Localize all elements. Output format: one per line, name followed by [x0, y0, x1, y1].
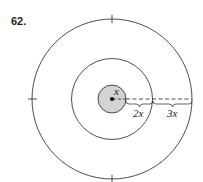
- concentric-circles-diagram: x 2x 3x: [0, 0, 203, 182]
- label-3x: 3x: [166, 107, 178, 119]
- label-2x: 2x: [133, 107, 144, 119]
- label-x: x: [113, 85, 119, 97]
